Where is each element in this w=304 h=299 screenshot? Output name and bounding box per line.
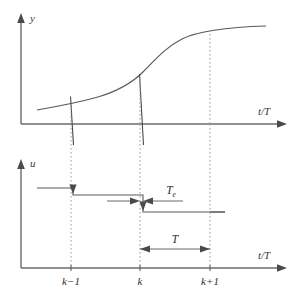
y-axis-label: y bbox=[29, 12, 35, 24]
tick-label-k-minus-1: k−1 bbox=[62, 275, 80, 287]
timing-diagram-svg: y t/T u bbox=[0, 0, 304, 299]
sampling-period-arrow-right-icon bbox=[200, 245, 210, 252]
bottom-time-axis-label: t/T bbox=[258, 249, 271, 261]
output-response-curve bbox=[37, 26, 266, 110]
control-panel: u t/T Te bbox=[17, 157, 287, 287]
sampling-period-arrow-left-icon bbox=[140, 245, 150, 252]
output-panel: y t/T bbox=[17, 12, 287, 145]
computation-delay-label: Te bbox=[166, 184, 176, 199]
top-time-axis-label: t/T bbox=[258, 105, 271, 117]
figure-container: y t/T u bbox=[0, 0, 304, 299]
y-axis-arrow-icon bbox=[17, 13, 25, 23]
sample-drop-line-k bbox=[140, 74, 144, 145]
tick-label-k-plus-1: k+1 bbox=[201, 275, 219, 287]
delay-subscript: e bbox=[173, 190, 177, 199]
bottom-time-axis-arrow-icon bbox=[277, 264, 287, 272]
sampling-period-label: T bbox=[172, 233, 180, 245]
top-time-axis-arrow-icon bbox=[277, 120, 287, 128]
tick-label-k: k bbox=[138, 275, 144, 287]
inter-panel-guides bbox=[71, 124, 210, 268]
stair-transition-arrow-k-minus-1-icon bbox=[69, 185, 76, 195]
u-axis-arrow-icon bbox=[17, 159, 25, 169]
delay-measure-left-arrow-icon bbox=[130, 197, 140, 204]
u-axis-label: u bbox=[30, 157, 36, 169]
